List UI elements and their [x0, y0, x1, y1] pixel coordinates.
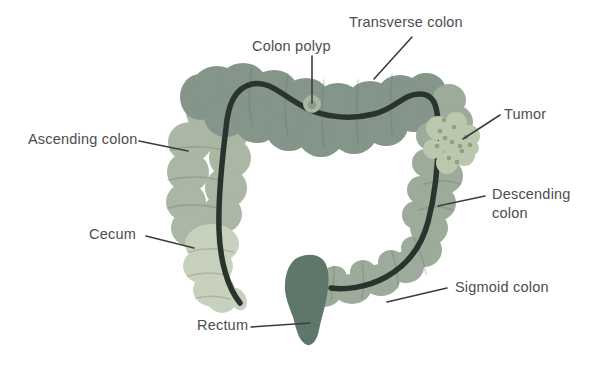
- leader-sigmoid-colon: [387, 288, 447, 302]
- leader-transverse-colon: [374, 37, 412, 79]
- colon-anatomy-diagram: Transverse colon Colon polyp Tumor Ascen…: [0, 0, 596, 366]
- label-transverse-colon: Transverse colon: [349, 13, 463, 32]
- label-descending-colon: Descending colon: [492, 185, 580, 223]
- label-tumor: Tumor: [504, 105, 546, 124]
- label-rectum: Rectum: [197, 316, 248, 335]
- rectum-shape: [285, 255, 329, 345]
- label-sigmoid-colon: Sigmoid colon: [455, 278, 549, 297]
- label-cecum: Cecum: [89, 225, 136, 244]
- label-ascending-colon: Ascending colon: [28, 130, 137, 149]
- label-colon-polyp: Colon polyp: [252, 37, 331, 56]
